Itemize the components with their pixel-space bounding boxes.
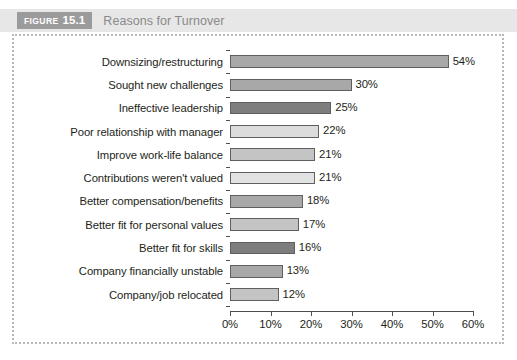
x-axis-tick [433,311,434,316]
bar-row: Better compensation/benefits18% [14,190,506,213]
bar [230,195,303,208]
bar-row: Contributions weren't valued21% [14,166,506,189]
figure-title: Reasons for Turnover [103,14,224,28]
bar-row: Downsizing/restructuring54% [14,50,506,73]
bar [230,242,295,255]
bar [230,172,315,185]
bar [230,265,283,278]
bar-row: Company financially unstable13% [14,260,506,283]
bar-value-label: 21% [319,148,341,160]
bar-value-label: 21% [319,171,341,183]
bar-value-label: 30% [356,78,378,90]
x-axis-tick-label: 20% [300,318,322,330]
category-tick [226,190,230,191]
x-axis-tick-label: 40% [381,318,403,330]
chart-frame: Downsizing/restructuring54%Sought new ch… [12,34,504,344]
bar-value-label: 25% [335,101,357,113]
bar-value-label: 17% [303,218,325,230]
bar-row: Better fit for personal values17% [14,213,506,236]
x-axis-tick-label: 10% [259,318,281,330]
bar [230,55,449,68]
x-axis-tick [271,311,272,316]
bar [230,148,315,161]
figure-tag-word: FIGURE [24,13,59,30]
x-axis-tick [473,311,474,316]
bar-track: 13% [230,260,496,283]
x-axis-tick-label: 0% [222,318,238,330]
category-tick [226,283,230,284]
bar [230,102,331,115]
x-axis-tick [230,311,231,316]
category-tick [226,120,230,121]
bar-track: 25% [230,97,496,120]
bar-track: 16% [230,236,496,259]
bar-track: 22% [230,120,496,143]
category-tick [226,73,230,74]
bar-value-label: 22% [323,124,345,136]
category-tick [226,143,230,144]
category-tick [226,167,230,168]
x-axis-tick [352,311,353,316]
bar-value-label: 54% [453,55,475,67]
bar-track: 17% [230,213,496,236]
bar [230,125,319,138]
figure-tag-number: 15.1 [63,12,86,29]
bar [230,79,352,92]
bar-chart-plot: Downsizing/restructuring54%Sought new ch… [14,36,506,346]
bar-track: 54% [230,50,496,73]
bar-value-label: 18% [307,194,329,206]
x-axis-tick [311,311,312,316]
figure-header-band: FIGURE 15.1 Reasons for Turnover [0,9,517,32]
bar-category-label: Contributions weren't valued [14,172,230,184]
bar-value-label: 16% [299,241,321,253]
category-tick [226,50,230,51]
x-axis-tick-label: 30% [340,318,362,330]
bar-rows: Downsizing/restructuring54%Sought new ch… [14,50,506,306]
bar-category-label: Better compensation/benefits [14,195,230,207]
bar-category-label: Company/job relocated [14,289,230,301]
bar-category-label: Better fit for skills [14,242,230,254]
x-axis-tick-label: 60% [462,318,484,330]
bar-track: 21% [230,166,496,189]
bar-category-label: Downsizing/restructuring [14,56,230,68]
category-tick [226,213,230,214]
x-axis-tick-label: 50% [421,318,443,330]
x-axis-tick [392,311,393,316]
bar-row: Improve work-life balance21% [14,143,506,166]
bar-row: Poor relationship with manager22% [14,120,506,143]
figure-container: FIGURE 15.1 Reasons for Turnover Downsiz… [0,0,517,360]
bar-row: Ineffective leadership25% [14,97,506,120]
category-tick [226,260,230,261]
category-tick [226,236,230,237]
bar-track: 18% [230,190,496,213]
figure-number-badge: FIGURE 15.1 [17,12,92,29]
bar [230,218,299,231]
category-tick [226,306,230,307]
bar-row: Company/job relocated12% [14,283,506,306]
bar-track: 30% [230,73,496,96]
bar-category-label: Poor relationship with manager [14,126,230,138]
bar-category-label: Improve work-life balance [14,149,230,161]
category-tick [226,97,230,98]
bar-value-label: 13% [287,264,309,276]
bar-row: Sought new challenges30% [14,73,506,96]
bar-category-label: Better fit for personal values [14,219,230,231]
bar-track: 21% [230,143,496,166]
bar-category-label: Sought new challenges [14,79,230,91]
bar-row: Better fit for skills16% [14,236,506,259]
bar-category-label: Ineffective leadership [14,102,230,114]
bar-category-label: Company financially unstable [14,265,230,277]
bar-track: 12% [230,283,496,306]
bar [230,288,279,301]
bar-value-label: 12% [283,288,305,300]
